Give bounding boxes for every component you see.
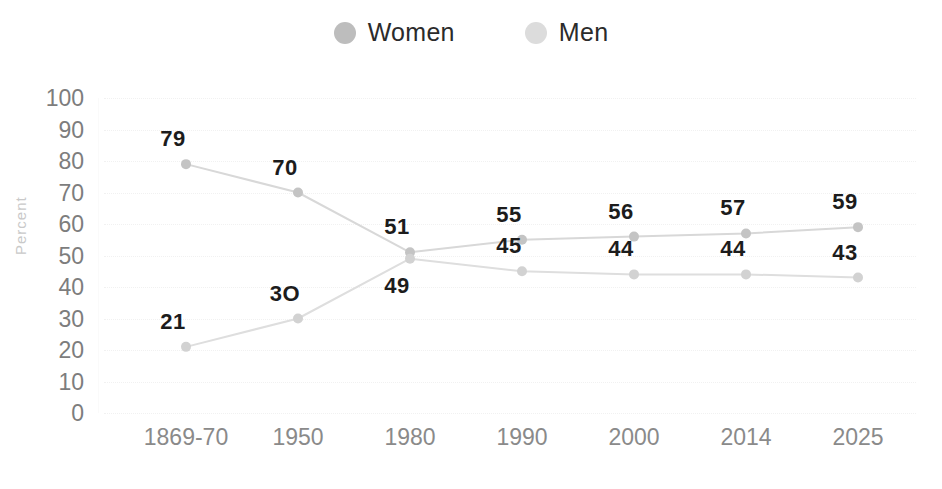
y-axis-tick-label: 80 <box>36 148 84 175</box>
data-point-men[interactable] <box>181 342 191 352</box>
x-axis-tick-label: 1950 <box>272 424 323 451</box>
y-axis-tick-label: 50 <box>36 242 84 269</box>
point-value-label: 57 <box>720 195 745 221</box>
point-value-label: 56 <box>608 199 633 225</box>
y-axis-tick-label: 70 <box>36 179 84 206</box>
point-value-label: 44 <box>608 236 633 262</box>
y-axis-tick-label: 40 <box>36 274 84 301</box>
chart-container: Women Men Percent 1009080706050403020100… <box>0 0 942 489</box>
data-point-men[interactable] <box>405 254 415 264</box>
point-value-label: 59 <box>832 189 857 215</box>
y-axis-line <box>98 98 99 413</box>
data-point-men[interactable] <box>629 269 639 279</box>
x-axis-tick-label: 2014 <box>720 424 771 451</box>
plot-area: 79705155565759213O4945444443 <box>104 98 916 413</box>
legend-swatch-men-icon <box>525 22 547 44</box>
y-axis-title: Percent <box>12 196 29 255</box>
point-value-label: 70 <box>272 155 297 181</box>
data-point-men[interactable] <box>293 314 303 324</box>
legend-swatch-women-icon <box>334 22 356 44</box>
y-axis-tick-label: 0 <box>36 400 84 427</box>
x-axis-tick-label: 2025 <box>832 424 883 451</box>
legend-label-men: Men <box>559 18 609 47</box>
x-axis-tick-label: 2000 <box>608 424 659 451</box>
y-axis-tick-label: 60 <box>36 211 84 238</box>
y-axis-tick-labels: 1009080706050403020100 <box>36 98 84 413</box>
point-value-label: 3O <box>270 281 300 307</box>
point-value-label: 44 <box>720 236 745 262</box>
point-value-label: 79 <box>160 126 185 152</box>
point-value-label: 55 <box>496 202 521 228</box>
data-point-women[interactable] <box>853 222 863 232</box>
y-axis-tick-label: 20 <box>36 337 84 364</box>
x-axis-tick-label: 1990 <box>496 424 547 451</box>
point-value-label: 49 <box>384 273 409 299</box>
y-axis-tick-label: 100 <box>36 85 84 112</box>
y-axis-tick-label: 30 <box>36 305 84 332</box>
y-axis-tick-label: 10 <box>36 368 84 395</box>
gridline <box>104 413 916 415</box>
data-point-men[interactable] <box>517 266 527 276</box>
legend-item-women[interactable]: Women <box>334 18 455 47</box>
data-point-men[interactable] <box>853 273 863 283</box>
point-value-label: 43 <box>832 240 857 266</box>
data-point-women[interactable] <box>293 188 303 198</box>
x-axis-tick-labels: 1869-70195019801990200020142025 <box>104 424 916 458</box>
y-axis-tick-label: 90 <box>36 116 84 143</box>
data-point-men[interactable] <box>741 269 751 279</box>
legend-label-women: Women <box>368 18 455 47</box>
x-axis-tick-label: 1980 <box>384 424 435 451</box>
point-value-label: 45 <box>496 233 521 259</box>
chart-legend: Women Men <box>0 18 942 47</box>
legend-item-men[interactable]: Men <box>525 18 609 47</box>
data-point-women[interactable] <box>181 159 191 169</box>
x-axis-tick-label: 1869-70 <box>144 424 228 451</box>
point-value-label: 21 <box>160 309 185 335</box>
point-value-label: 51 <box>384 214 409 240</box>
